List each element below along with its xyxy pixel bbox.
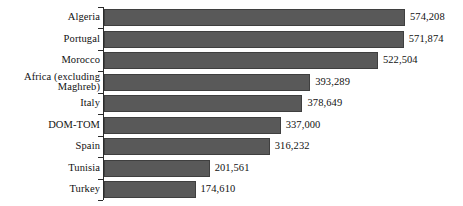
value-label: 378,649	[307, 98, 342, 109]
axis-tick	[98, 7, 103, 8]
bar	[104, 52, 378, 69]
category-label: DOM-TOM	[0, 120, 100, 131]
category-label: Spain	[0, 141, 100, 152]
axis-tick	[98, 157, 103, 158]
bar-row: Turkey174,610	[0, 181, 463, 198]
value-label: 522,504	[383, 55, 418, 66]
axis-tick	[98, 50, 103, 51]
axis-tick	[98, 71, 103, 72]
axis-tick	[98, 114, 103, 115]
bar-row: Morocco522,504	[0, 52, 463, 69]
bar	[104, 74, 310, 91]
bar	[104, 160, 210, 177]
bar-row: Spain316,232	[0, 138, 463, 155]
category-label: Portugal	[0, 34, 100, 45]
plot-area: Algeria574,208Portugal571,874Morocco522,…	[0, 0, 463, 206]
value-label: 574,208	[410, 12, 445, 23]
category-label: Turkey	[0, 184, 100, 195]
bar	[104, 31, 404, 48]
axis-tick	[98, 136, 103, 137]
axis-tick	[98, 28, 103, 29]
value-label: 201,561	[215, 163, 250, 174]
bar-chart: Algeria574,208Portugal571,874Morocco522,…	[0, 0, 463, 206]
axis-tick	[98, 179, 103, 180]
bar	[104, 138, 270, 155]
value-label: 316,232	[275, 141, 310, 152]
bar-row: Italy378,649	[0, 95, 463, 112]
value-label: 174,610	[201, 184, 236, 195]
axis-tick	[98, 200, 103, 201]
bar	[104, 117, 281, 134]
bar	[104, 181, 196, 198]
bar	[104, 9, 405, 26]
category-label: Algeria	[0, 12, 100, 23]
category-label: Tunisia	[0, 163, 100, 174]
value-label: 571,874	[409, 34, 444, 45]
value-label: 337,000	[286, 120, 321, 131]
bar	[104, 95, 302, 112]
value-label: 393,289	[315, 77, 350, 88]
bar-row: Tunisia201,561	[0, 160, 463, 177]
bar-row: DOM-TOM337,000	[0, 117, 463, 134]
category-label: Africa (excluding Maghreb)	[0, 72, 100, 93]
bar-row: Algeria574,208	[0, 9, 463, 26]
category-label: Italy	[0, 98, 100, 109]
category-label: Morocco	[0, 55, 100, 66]
bar-row: Africa (excluding Maghreb)393,289	[0, 74, 463, 91]
bar-row: Portugal571,874	[0, 31, 463, 48]
axis-tick	[98, 93, 103, 94]
